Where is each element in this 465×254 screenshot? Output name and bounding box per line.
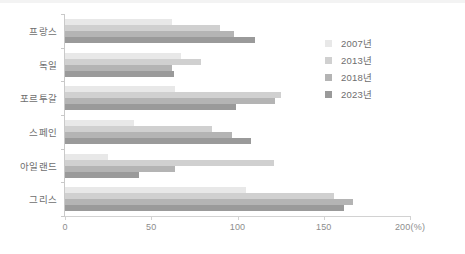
legend-item[interactable]: 2023년 [325, 87, 445, 101]
legend-item[interactable]: 2018년 [325, 70, 445, 84]
bar [65, 37, 255, 43]
x-axis-tick [238, 216, 239, 220]
legend-swatch-icon [325, 57, 332, 64]
bar [65, 205, 344, 211]
x-axis-tick [324, 216, 325, 220]
legend-swatch-icon [325, 40, 332, 47]
legend-label: 2023년 [341, 87, 372, 101]
category-label: 프랑스 [29, 24, 57, 38]
category-label: 독일 [39, 58, 57, 72]
bar [65, 172, 139, 178]
legend-swatch-icon [325, 91, 332, 98]
x-axis-tick [410, 216, 411, 220]
bar [65, 104, 236, 110]
legend-label: 2013년 [341, 53, 372, 67]
x-axis-tick-label: 100 [230, 222, 246, 232]
bar [65, 71, 174, 77]
x-axis-tick-label: 50 [146, 222, 156, 232]
legend-label: 2018년 [341, 70, 372, 84]
category-label: 스페인 [29, 125, 57, 139]
top-band [0, 0, 465, 3]
x-axis-tick [65, 216, 66, 220]
x-axis-tick-label: 150 [316, 222, 332, 232]
x-axis-tick-label: 200(%) [395, 222, 425, 232]
legend-item[interactable]: 2013년 [325, 53, 445, 67]
x-axis-tick [151, 216, 152, 220]
legend-swatch-icon [325, 74, 332, 81]
x-axis-tick-label: 0 [62, 222, 67, 232]
bar [65, 138, 251, 144]
category-label: 아일랜드 [20, 159, 57, 173]
legend: 2007년2013년2018년2023년 [325, 36, 445, 104]
category-label: 포르투갈 [20, 91, 57, 105]
bar-chart: 050100150200(%) 프랑스독일포르투갈스페인아일랜드그리스 2007… [0, 0, 465, 254]
legend-label: 2007년 [341, 36, 372, 50]
legend-item[interactable]: 2007년 [325, 36, 445, 50]
category-label: 그리스 [29, 192, 57, 206]
y-axis-tick [61, 216, 65, 217]
